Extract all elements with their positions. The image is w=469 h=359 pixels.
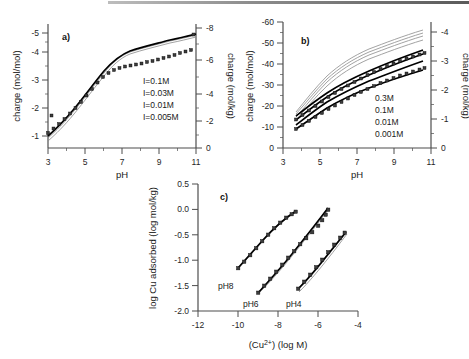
panel-c-xtick-4: -4 — [354, 320, 362, 330]
panel-a-right-ticks — [196, 28, 202, 148]
panel-a-ytick-2: -3 — [31, 75, 39, 85]
panel-b-xtick-1: 5 — [318, 157, 323, 167]
panel-c-letter: c) — [220, 192, 228, 202]
panel-a-data — [47, 33, 197, 141]
top-divider-rule — [108, 1, 469, 4]
panel-c-xtick-0: -12 — [192, 320, 205, 330]
panel-b-ytick-6: -60 — [262, 17, 275, 27]
panel-a-ytick-right-2: -4 — [206, 89, 214, 99]
panel-a-ytick-right-0: 0 — [206, 143, 211, 153]
panel-b-ytick-2: -20 — [262, 101, 275, 111]
panel-b-ytick-1: -10 — [262, 122, 275, 132]
panel-b-x-ticks — [283, 148, 431, 154]
panel-a-curve-i-0p01m — [48, 35, 196, 138]
panel-b-legend-item-3: 0.001M — [375, 129, 403, 139]
panel-b-ytick-right-1: -1 — [441, 114, 449, 124]
panel-b-charge-vs-ph: 0 -10 -20 -30 -40 -50 -60 0 -1 -2 -3 - — [235, 8, 469, 178]
panel-c-y-ticks — [192, 184, 198, 311]
panel-b-ytick-right-4: -4 — [441, 27, 449, 37]
panel-b-ytick-right-2: -2 — [441, 85, 449, 95]
panel-a-ytick-4: -5 — [31, 28, 39, 38]
panel-a-ytick-right-3: -6 — [206, 55, 214, 65]
panel-a-left-ticks — [42, 33, 48, 136]
panel-a-ytick-0: -1 — [31, 131, 39, 141]
panel-a-x-ticks — [48, 148, 196, 154]
panel-c-xtick-1: -10 — [232, 320, 245, 330]
panel-a-legend-item-0: I=0.1M — [143, 76, 169, 86]
panel-c-ytick-3: -1.0 — [174, 255, 189, 265]
panel-b-ytick-4: -40 — [262, 59, 275, 69]
panel-b-xtick-4: 11 — [427, 157, 436, 167]
panel-c-xtick-3: -6 — [314, 320, 322, 330]
panel-a-y-left-axis-title: charge (mol/mol) — [11, 50, 22, 121]
panel-b-xtick-3: 9 — [392, 157, 397, 167]
panel-c-curve-labels: pH8 pH6 pH4 — [218, 281, 302, 309]
panel-b-ytick-3: -30 — [262, 80, 275, 90]
panel-c-x-axis-title: (Cu2+) (log M) — [249, 339, 308, 350]
panel-a-ytick-1: -2 — [31, 103, 39, 113]
panel-b-data — [295, 30, 427, 131]
panel-b-right-ticks — [431, 32, 437, 148]
panel-c-x-ticks — [198, 311, 358, 317]
panel-b-legend: 0.3M 0.1M 0.01M 0.001M — [375, 93, 403, 139]
panel-b-xtick-0: 3 — [281, 157, 286, 167]
panel-c-cu-adsorption-isotherm: 0.5 0.0 -0.5 -1.0 -1.5 -2.0 -12 -10 -8 -… — [130, 176, 469, 359]
panel-c-x-title-base: (Cu — [249, 339, 264, 350]
panel-c-label-ph4: pH4 — [286, 299, 302, 309]
panel-c-data — [237, 208, 348, 294]
panel-a-x-axis-title: pH — [116, 169, 128, 180]
panel-c-ytick-4: -1.5 — [174, 281, 189, 291]
panel-b-markers-lower — [295, 67, 427, 131]
panel-c-plot: 0.5 0.0 -0.5 -1.0 -1.5 -2.0 -12 -10 -8 -… — [130, 176, 469, 359]
panel-b-plot: 0 -10 -20 -30 -40 -50 -60 0 -1 -2 -3 - — [235, 8, 469, 178]
panel-b-ytick-right-0: 0 — [441, 143, 446, 153]
panel-a-charge-vs-ph: -1 -2 -3 -4 -5 0 -2 -4 -6 -8 — [0, 8, 235, 178]
panel-c-label-ph8: pH8 — [218, 281, 234, 291]
panel-c-label-ph6: pH6 — [243, 299, 259, 309]
panel-a-legend-item-3: I=0.005M — [143, 112, 179, 122]
panel-b-ytick-5: -50 — [262, 38, 275, 48]
panel-c-ytick-5: -2.0 — [174, 306, 189, 316]
panel-a-xtick-4: 11 — [192, 157, 201, 167]
panel-c-ytick-1: 0.0 — [177, 204, 189, 214]
panel-b-ytick-right-3: -3 — [441, 56, 449, 66]
panel-a-letter: a) — [62, 32, 70, 42]
panel-a-ytick-right-1: -2 — [206, 116, 214, 126]
panel-a-xtick-3: 9 — [157, 157, 162, 167]
panel-b-y-right-axis-title: charge (mol/kg) — [461, 53, 469, 119]
panel-a-plot: -1 -2 -3 -4 -5 0 -2 -4 -6 -8 — [0, 8, 235, 178]
figure-root: -1 -2 -3 -4 -5 0 -2 -4 -6 -8 — [0, 0, 469, 359]
panel-b-xtick-2: 7 — [355, 157, 360, 167]
panel-a-xtick-0: 3 — [46, 157, 51, 167]
panel-b-left-ticks — [277, 22, 283, 148]
panel-c-xtick-2: -8 — [274, 320, 282, 330]
panel-c-curve-ph4-model-2 — [299, 234, 347, 292]
panel-b-legend-item-0: 0.3M — [375, 93, 394, 103]
panel-c-ytick-2: -0.5 — [174, 230, 189, 240]
panel-b-legend-item-1: 0.1M — [375, 105, 394, 115]
panel-a-xtick-2: 7 — [120, 157, 125, 167]
panel-c-ytick-0: 0.5 — [177, 179, 189, 189]
panel-a-legend-item-2: I=0.01M — [143, 100, 174, 110]
panel-a-legend-item-1: I=0.03M — [143, 88, 174, 98]
panel-a-ytick-3: -4 — [31, 47, 39, 57]
panel-c-x-title-tail: ) (log M) — [272, 339, 307, 350]
panel-c-x-title-superscript: 2+ — [264, 339, 272, 346]
panel-a-legend: I=0.1M I=0.03M I=0.01M I=0.005M — [143, 76, 179, 122]
panel-b-y-left-axis-title: charge (mol/mol) — [244, 50, 255, 121]
panel-b-legend-item-2: 0.01M — [375, 117, 399, 127]
panel-b-ytick-0: 0 — [269, 143, 274, 153]
panel-a-ytick-right-4: -8 — [206, 23, 214, 33]
panel-b-letter: b) — [301, 36, 310, 46]
panel-a-xtick-1: 5 — [83, 157, 88, 167]
panel-c-y-axis-title: log Cu adsorbed (log mol/kg) — [147, 187, 158, 309]
